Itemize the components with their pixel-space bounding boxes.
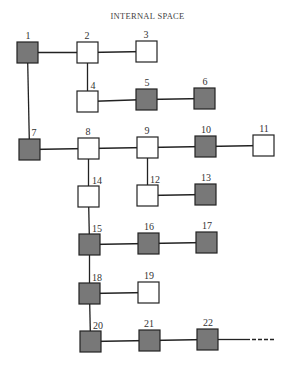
node-label: 11 (259, 123, 269, 134)
node-16: 16 (138, 221, 159, 254)
node-layer: 12345678910111213141516171819202122 (17, 29, 274, 352)
node-label: 10 (201, 124, 211, 135)
empty-square-node (137, 137, 158, 158)
filled-square-node (138, 233, 159, 254)
filled-square-node (136, 89, 157, 110)
node-label: 12 (150, 174, 160, 185)
node-22: 22 (197, 317, 218, 350)
node-5: 5 (136, 77, 157, 110)
node-label: 5 (145, 77, 150, 88)
node-label: 7 (32, 127, 37, 138)
edge-1-7 (28, 53, 30, 150)
filled-square-node (80, 331, 101, 352)
node-3: 3 (136, 29, 157, 62)
filled-square-node (194, 88, 215, 109)
node-1: 1 (17, 30, 38, 63)
node-21: 21 (139, 318, 160, 351)
filled-square-node (197, 329, 218, 350)
node-label: 22 (203, 317, 213, 328)
empty-square-node (78, 138, 99, 159)
node-2: 2 (77, 30, 98, 63)
node-label: 6 (203, 76, 208, 87)
filled-square-node (79, 283, 100, 304)
node-18: 18 (79, 272, 102, 304)
filled-square-node (79, 234, 100, 255)
empty-square-node (136, 41, 157, 62)
empty-square-node (253, 135, 274, 156)
node-13: 13 (195, 172, 216, 205)
node-9: 9 (137, 125, 158, 158)
node-label: 21 (144, 318, 154, 329)
filled-square-node (139, 330, 160, 351)
node-label: 4 (91, 80, 96, 91)
node-11: 11 (253, 123, 274, 156)
empty-square-node (138, 282, 159, 303)
node-label: 3 (144, 29, 149, 40)
node-15: 15 (79, 223, 102, 255)
node-10: 10 (195, 124, 216, 157)
node-label: 20 (93, 320, 103, 331)
filled-square-node (19, 139, 40, 160)
filled-square-node (196, 232, 217, 253)
node-12: 12 (137, 174, 160, 206)
network-diagram: 12345678910111213141516171819202122 (0, 0, 295, 368)
node-label: 2 (85, 30, 90, 41)
node-label: 8 (86, 126, 91, 137)
node-label: 18 (92, 272, 102, 283)
node-14: 14 (78, 175, 102, 207)
empty-square-node (137, 185, 158, 206)
node-label: 19 (144, 270, 154, 281)
node-17: 17 (196, 220, 217, 253)
node-20: 20 (80, 320, 103, 352)
filled-square-node (195, 184, 216, 205)
node-label: 15 (92, 223, 102, 234)
empty-square-node (77, 91, 98, 112)
node-label: 1 (26, 30, 31, 41)
node-6: 6 (194, 76, 215, 109)
empty-square-node (77, 42, 98, 63)
node-19: 19 (138, 270, 159, 303)
filled-square-node (17, 42, 38, 63)
node-label: 14 (92, 175, 102, 186)
node-8: 8 (78, 126, 99, 159)
node-label: 16 (144, 221, 154, 232)
node-label: 17 (202, 220, 212, 231)
node-label: 9 (145, 125, 150, 136)
node-label: 13 (201, 172, 211, 183)
filled-square-node (195, 136, 216, 157)
empty-square-node (78, 186, 99, 207)
